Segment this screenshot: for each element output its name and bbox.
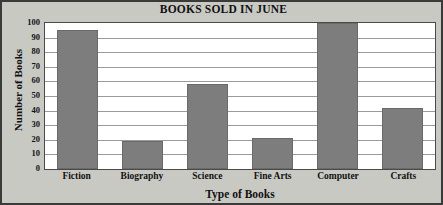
bar-slot [175, 23, 240, 169]
y-tick-label: 60 [16, 76, 40, 85]
x-axis-title: Type of Books [40, 188, 440, 200]
bars-layer [45, 23, 435, 169]
y-tick-label: 40 [16, 105, 40, 114]
bar-slot [370, 23, 435, 169]
y-tick-label: 0 [16, 164, 40, 173]
bar-chart-figure: BOOKS SOLD IN JUNE Number of Books 10090… [0, 0, 443, 205]
y-tick-label: 80 [16, 47, 40, 56]
bar-slot [305, 23, 370, 169]
bar-slot [45, 23, 110, 169]
x-tick-label: Fiction [44, 171, 109, 181]
bar-slot [240, 23, 305, 169]
y-tick-label: 70 [16, 62, 40, 71]
bar[interactable] [187, 84, 227, 169]
y-axis-tick-labels: 1009080706050403020100 [16, 22, 40, 168]
bar[interactable] [317, 23, 357, 169]
plot-area [44, 22, 436, 170]
bar[interactable] [382, 108, 422, 169]
y-tick-label: 100 [16, 18, 40, 27]
bar[interactable] [252, 138, 292, 169]
y-tick-label: 10 [16, 149, 40, 158]
y-tick-label: 90 [16, 32, 40, 41]
x-axis-tick-labels: FictionBiographyScienceFine ArtsComputer… [44, 171, 436, 181]
x-tick-label: Fine Arts [240, 171, 305, 181]
y-tick-label: 50 [16, 91, 40, 100]
y-tick-label: 30 [16, 120, 40, 129]
x-tick-label: Crafts [371, 171, 436, 181]
x-tick-label: Biography [109, 171, 174, 181]
bar[interactable] [57, 30, 97, 169]
x-tick-label: Computer [305, 171, 370, 181]
bar-slot [110, 23, 175, 169]
x-tick-label: Science [175, 171, 240, 181]
bar[interactable] [122, 141, 162, 169]
chart-title: BOOKS SOLD IN JUNE [2, 3, 443, 15]
y-tick-label: 20 [16, 135, 40, 144]
